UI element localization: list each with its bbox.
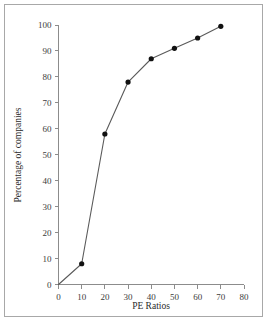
data-point-marker: [79, 261, 84, 266]
x-tick-label: 30: [124, 292, 134, 302]
y-tick-label: 30: [43, 202, 53, 212]
line-chart-plot: 0102030405060708090100 01020304050607080…: [5, 5, 262, 316]
x-tick-label: 0: [56, 292, 61, 302]
y-tick-label: 20: [43, 228, 53, 238]
data-point-marker: [172, 46, 177, 51]
data-point-marker: [125, 79, 130, 84]
data-point-marker: [195, 35, 200, 40]
figure-border: 0102030405060708090100 01020304050607080…: [4, 4, 263, 317]
x-tick-label: 20: [100, 292, 110, 302]
x-axis-title: PE Ratios: [132, 301, 170, 311]
x-tick-label: 10: [77, 292, 87, 302]
y-tick-label: 70: [43, 98, 53, 108]
y-tick-label: 80: [43, 72, 53, 82]
x-tick-label: 40: [147, 292, 157, 302]
data-point-marker: [149, 56, 154, 61]
y-tick-label: 60: [43, 124, 53, 134]
y-tick-label: 10: [43, 254, 53, 264]
y-tick-label: 90: [43, 46, 53, 56]
data-series-line: [59, 26, 221, 284]
y-axis-title: Percentage of companies: [13, 107, 23, 202]
y-tick-label: 50: [43, 150, 53, 160]
y-tick-label: 0: [47, 280, 52, 290]
data-point-marker: [102, 131, 107, 136]
x-tick-label: 80: [240, 292, 250, 302]
y-tick-label: 40: [43, 176, 53, 186]
chart-figure: 0102030405060708090100 01020304050607080…: [0, 0, 269, 325]
y-axis-ticks: 0102030405060708090100: [38, 20, 59, 290]
x-tick-label: 60: [193, 292, 203, 302]
x-axis-ticks: 01020304050607080: [56, 285, 249, 302]
y-tick-label: 100: [38, 20, 52, 30]
data-series-markers: [79, 24, 223, 267]
x-tick-label: 50: [170, 292, 180, 302]
x-tick-label: 70: [216, 292, 226, 302]
data-point-marker: [218, 24, 223, 29]
